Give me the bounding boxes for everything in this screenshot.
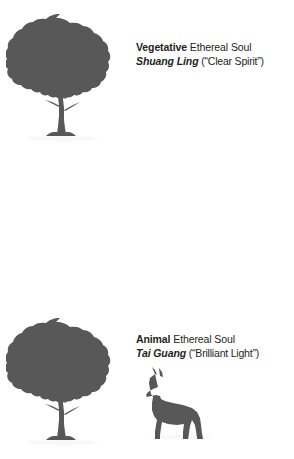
caption-line-title: Vegetative Ethereal Soul (136, 40, 264, 54)
soul-gloss-label: (“Clear Spirit”) (198, 55, 263, 67)
tree-silhouette (6, 10, 118, 140)
row-animal: Animal Ethereal Soul Tai Guang (“Brillia… (0, 152, 294, 304)
ethereal-souls-figure: Vegetative Ethereal Soul Shuang Ling (“C… (0, 0, 294, 459)
soul-kind-label: Vegetative (136, 41, 187, 53)
caption-vegetative: Vegetative Ethereal Soul Shuang Ling (“C… (136, 40, 264, 67)
row-human: Human Ethereal Soul You Jing (“Dark Esse… (0, 304, 294, 459)
caption-line-pinyin: Shuang Ling (“Clear Spirit”) (136, 54, 264, 68)
soul-pinyin-label: Shuang Ling (136, 55, 198, 67)
tree-ground-shadow (26, 136, 98, 141)
soul-type-label: Ethereal Soul (187, 41, 252, 53)
row-vegetative: Vegetative Ethereal Soul Shuang Ling (“C… (0, 0, 294, 152)
